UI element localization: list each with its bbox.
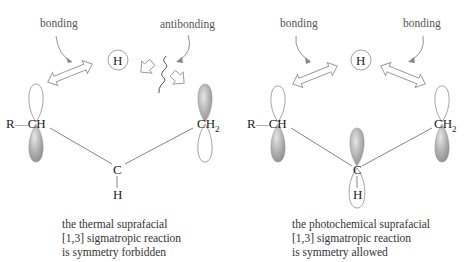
label-bonding-right: bonding [403,17,441,29]
label-bonding-left: bonding [280,17,318,29]
bond-right [125,128,193,164]
central-hydrogen: H [113,188,122,201]
caption-thermal: the thermal suprafacial [1,3] sigmatropi… [62,217,181,259]
antibonding-wavy-line-icon [159,56,167,93]
hydrogen-atom: H [113,54,122,67]
pointer-arrow-antibonding [178,35,190,61]
r-group-right: R—CH [247,117,287,130]
central-hydrogen-right: H [353,188,362,201]
ch2-group-right: CH2 [434,117,457,134]
bonding-double-arrow-right-icon [378,60,428,91]
pointer-arrow-bonding [56,36,72,62]
central-carbon-right: C [353,163,362,176]
label-bonding: bonding [40,17,78,29]
ch2-group: CH2 [197,117,220,134]
central-carbon: C [113,163,122,176]
caption-photochemical: the photochemical suprafacial [1,3] sigm… [292,217,430,259]
bond-left [50,128,112,164]
repulsion-arrow-right-icon [167,67,189,89]
bonding-double-arrow-left-icon [290,60,340,91]
hydrogen-atom-right: H [356,54,365,67]
label-antibonding: antibonding [160,18,215,30]
repulsion-arrow-left-icon [136,56,158,78]
r-group: R—CH [6,117,46,130]
